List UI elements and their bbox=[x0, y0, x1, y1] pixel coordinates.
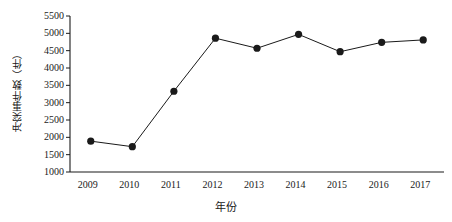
data-point-marker bbox=[212, 35, 219, 42]
data-markers bbox=[87, 31, 427, 151]
axis-spines bbox=[70, 16, 444, 172]
data-point-marker bbox=[420, 36, 427, 43]
data-point-marker bbox=[129, 143, 136, 150]
chart-container: 冲突事件数（件） 1000150020002500300035004000450… bbox=[0, 0, 452, 222]
data-point-marker bbox=[87, 138, 94, 145]
data-point-marker bbox=[337, 48, 344, 55]
data-point-marker bbox=[378, 39, 385, 46]
y-axis-ticks bbox=[66, 16, 70, 172]
data-point-marker bbox=[170, 88, 177, 95]
data-point-marker bbox=[295, 31, 302, 38]
data-point-marker bbox=[253, 45, 260, 52]
plot-area bbox=[0, 0, 452, 222]
